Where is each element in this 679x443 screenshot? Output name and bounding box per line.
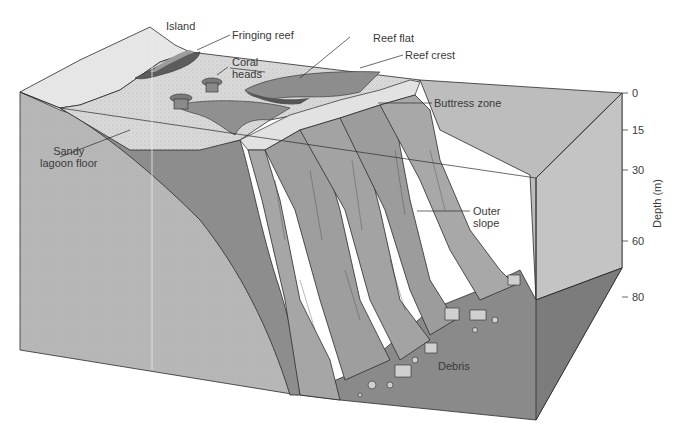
label-buttress-zone: Buttress zone [434, 97, 501, 109]
reef-block-diagram [0, 0, 679, 443]
label-island: Island [166, 20, 195, 32]
label-sandy-lagoon-line2: lagoon floor [40, 157, 98, 169]
label-outer-slope-line2: slope [473, 217, 501, 229]
label-coral-heads-line2: heads [232, 68, 262, 80]
depth-axis-title: Depth (m) [651, 179, 663, 228]
depth-tick-30: 30 [632, 164, 644, 176]
depth-tick-0: 0 [632, 87, 638, 99]
label-debris: Debris [438, 360, 470, 372]
label-reef-crest: Reef crest [405, 49, 455, 61]
label-outer-slope-line1: Outer [473, 205, 501, 217]
depth-tick-15: 15 [632, 124, 644, 136]
label-sandy-lagoon-floor: Sandy lagoon floor [40, 145, 98, 169]
label-sandy-lagoon-line1: Sandy [40, 145, 98, 157]
depth-tick-80: 80 [632, 291, 644, 303]
label-reef-flat: Reef flat [373, 32, 414, 44]
label-coral-heads-line1: Coral [232, 56, 262, 68]
label-fringing-reef: Fringing reef [232, 29, 294, 41]
depth-tick-60: 60 [632, 235, 644, 247]
label-coral-heads: Coral heads [232, 56, 262, 80]
label-outer-slope: Outer slope [473, 205, 501, 229]
